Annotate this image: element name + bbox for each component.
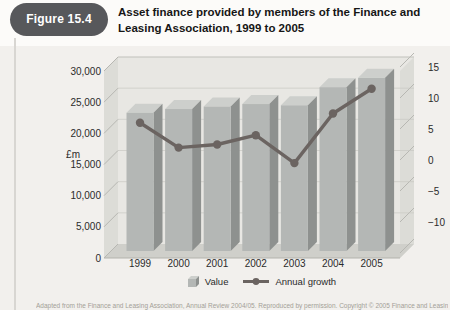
left-axis-label-30,000: 30,000	[70, 66, 101, 77]
legend-item-value: Value	[186, 275, 229, 288]
left-axis-label-0: 0	[95, 253, 101, 264]
value-bar-side-2001	[231, 98, 240, 251]
right-axis-label--10: −10	[428, 217, 445, 228]
x-axis-label-2002: 2002	[245, 258, 268, 269]
left-axis-label-25,000: 25,000	[70, 97, 101, 108]
growth-marker-2000	[174, 143, 182, 151]
right-axis-label-5: 5	[428, 124, 434, 135]
chart-canvas: 05,00010,00015,00020,00025,00030,0001510…	[0, 0, 450, 310]
value-bar-1999	[127, 113, 154, 251]
value-bar-side-2005	[385, 69, 394, 251]
right-axis-label-10: 10	[428, 93, 440, 104]
bar-swatch-icon	[186, 275, 200, 288]
line-swatch-icon	[242, 277, 270, 286]
right-axis-label-15: 15	[428, 62, 440, 73]
left-axis-label-20,000: 20,000	[70, 128, 101, 139]
x-axis-label-2003: 2003	[283, 258, 306, 269]
value-bar-2005	[358, 78, 385, 251]
growth-marker-2001	[213, 140, 221, 148]
growth-marker-2003	[290, 159, 298, 167]
value-bar-side-2003	[308, 96, 317, 251]
left-axis-label-10,000: 10,000	[70, 190, 101, 201]
x-axis-label-2000: 2000	[167, 258, 190, 269]
x-axis-label-2004: 2004	[322, 258, 345, 269]
x-axis-label-2001: 2001	[206, 258, 229, 269]
left-axis-title: £m	[66, 149, 80, 160]
right-axis-label-0: 0	[428, 155, 434, 166]
growth-marker-1999	[136, 119, 144, 127]
chart-legend: Value Annual growth	[36, 272, 450, 290]
left-axis-label-5,000: 5,000	[76, 221, 101, 232]
source-caption: Adapted from the Finance and Leasing Ass…	[36, 302, 448, 310]
value-bar-2001	[204, 107, 231, 251]
x-axis-label-1999: 1999	[129, 258, 152, 269]
x-axis-label-2005: 2005	[360, 258, 383, 269]
right-axis-label--5: −5	[428, 186, 440, 197]
legend-value-label: Value	[205, 276, 229, 287]
value-bar-side-2002	[269, 95, 278, 251]
value-bar-2003	[281, 105, 308, 251]
value-bar-side-1999	[154, 104, 163, 251]
growth-marker-2002	[252, 131, 260, 139]
legend-growth-label: Annual growth	[275, 276, 336, 287]
value-bar-2002	[242, 104, 269, 251]
value-bar-side-2000	[192, 100, 201, 251]
value-bar-2000	[165, 109, 192, 251]
growth-marker-2005	[367, 85, 375, 93]
left-axis-label-15,000: 15,000	[70, 159, 101, 170]
growth-marker-2004	[329, 109, 337, 117]
legend-item-growth: Annual growth	[242, 276, 336, 287]
